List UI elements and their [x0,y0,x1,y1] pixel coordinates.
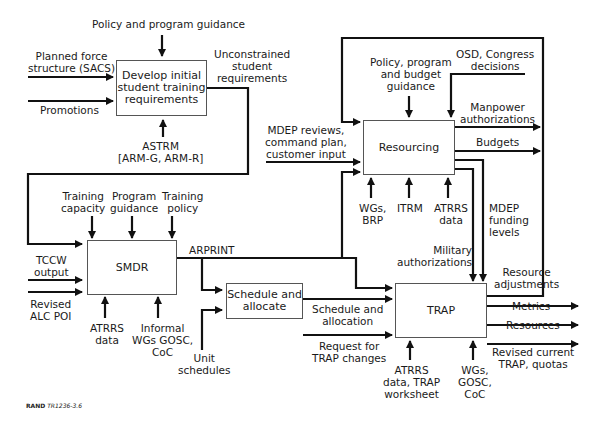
trap-box: TRAP [395,283,487,338]
label-atrrs-data-resourcing: ATRRS data [434,202,468,226]
label-unconstrained-requirements: Unconstrained student requirements [214,48,290,84]
label-promotions: Promotions [40,104,99,116]
footer-org: RAND [26,402,45,409]
label-atrrs-data-trap-worksheet: ATRRS data, TRAP worksheet [383,364,440,400]
label-military-authorizations: Military authorizations [397,244,472,268]
label-resource-adjustments: Resource adjustments [494,266,559,290]
label-program-guidance: Program guidance [110,190,158,214]
label-itrm: ITRM [397,202,423,214]
footer-figure-id: TR1236-3.6 [47,402,82,409]
label-atrrs-data-smdr: ATRRS data [90,322,124,346]
label-budgets: Budgets [476,136,519,148]
label-mdep-funding-levels: MDEP funding levels [489,202,529,238]
develop-requirements-box: Develop initial student training require… [116,60,207,116]
label-osd-congress-decisions: OSD, Congress decisions [456,48,534,72]
label-schedule-and-allocation: Schedule and allocation [312,303,383,327]
smdr-box: SMDR [87,240,177,295]
label-metrics: Metrics [512,300,550,312]
figure-footer: RAND TR1236-3.6 [26,402,82,409]
label-request-trap-changes: Request for TRAP changes [312,340,386,364]
resourcing-box: Resourcing [363,120,455,175]
label-planned-force-structure: Planned force structure (SACS) [28,50,115,74]
label-arprint: ARPRINT [189,244,234,256]
schedule-allocate-box: Schedule and allocate [226,283,303,319]
label-revised-current-trap: Revised current TRAP, quotas [492,346,574,370]
label-manpower-authorizations: Manpower authorizations [460,101,535,125]
label-wgs-brp: WGs, BRP [359,202,386,226]
label-resources: Resources [506,319,560,331]
label-wgs-gosc-coc: WGs, GOSC, CoC [458,364,492,400]
label-revised-alc-poi: Revised ALC POI [30,298,71,322]
label-policy-program-guidance: Policy and program guidance [92,18,245,30]
label-tccw-output: TCCW output [34,254,69,278]
label-unit-schedules: Unit schedules [178,352,231,376]
label-astrm: ASTRM [ARM-G, ARM-R] [118,140,203,164]
label-training-policy: Training policy [162,190,203,214]
label-policy-program-budget-guidance: Policy, program and budget guidance [370,56,452,92]
label-training-capacity: Training capacity [61,190,105,214]
label-mdep-reviews: MDEP reviews, command plan, customer inp… [265,124,347,160]
